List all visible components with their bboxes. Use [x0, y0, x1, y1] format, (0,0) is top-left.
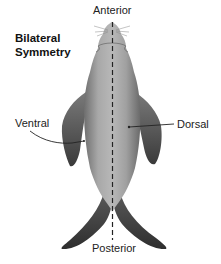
- dorsal-label: Dorsal: [177, 119, 209, 130]
- diagram-title: Bilateral Symmetry: [15, 31, 71, 59]
- right-tail-flipper: [113, 192, 166, 249]
- posterior-label: Posterior: [92, 243, 136, 254]
- left-tail-flipper: [61, 192, 112, 249]
- anterior-label: Anterior: [93, 5, 132, 16]
- left-flipper: [62, 92, 88, 166]
- title-line-1: Bilateral: [15, 31, 71, 45]
- ventral-pointer-dot: [83, 140, 85, 142]
- ventral-label: Ventral: [15, 118, 49, 129]
- title-line-2: Symmetry: [15, 45, 71, 59]
- dorsal-pointer-dot: [128, 126, 130, 128]
- bilateral-symmetry-diagram: Bilateral Symmetry Anterior Posterior Ve…: [0, 0, 221, 264]
